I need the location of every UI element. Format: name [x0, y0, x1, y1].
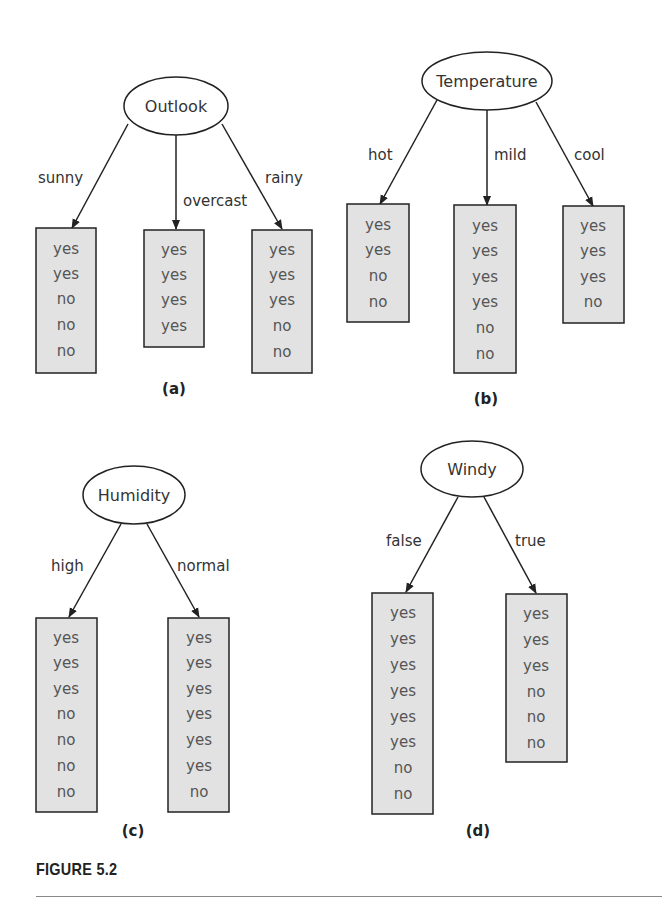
leaf-item: yes	[472, 268, 498, 286]
edge-label: cool	[574, 146, 605, 164]
root-label: Humidity	[98, 486, 171, 505]
panel-a: Outlook sunny overcast rainy yes yes no …	[36, 77, 312, 398]
panel-c: Humidity high normal yes yes yes no no n…	[36, 466, 230, 840]
panel-d: Windy false true yes yes yes yes yes yes…	[372, 441, 567, 840]
leaf-item: yes	[269, 291, 295, 309]
leaf-item: no	[273, 317, 292, 335]
edge-label: normal	[177, 557, 230, 575]
leaf-item: no	[57, 731, 76, 749]
leaf-item: yes	[472, 293, 498, 311]
leaf-item: no	[57, 316, 76, 334]
leaf-item: yes	[390, 682, 416, 700]
leaf-item: yes	[186, 629, 212, 647]
root-label: Windy	[447, 460, 497, 479]
leaf-item: no	[57, 757, 76, 775]
leaf-item: yes	[161, 241, 187, 259]
leaf-item: no	[476, 345, 495, 363]
panel-b: Temperature hot mild cool yes yes no no …	[347, 52, 624, 408]
caption-divider	[36, 896, 662, 897]
leaf-item: no	[190, 783, 209, 801]
edge-label: high	[51, 557, 84, 575]
leaf-item: no	[527, 734, 546, 752]
leaf-item: yes	[53, 240, 79, 258]
leaf-item: yes	[269, 266, 295, 284]
leaf-item: yes	[186, 654, 212, 672]
panel-label: (c)	[122, 822, 145, 840]
leaf-item: yes	[53, 680, 79, 698]
leaf-item: yes	[523, 657, 549, 675]
leaf-item: yes	[186, 731, 212, 749]
leaf-item: yes	[580, 242, 606, 260]
leaf-item: no	[57, 290, 76, 308]
leaf-item: yes	[390, 604, 416, 622]
leaf-item: yes	[161, 291, 187, 309]
leaf-item: no	[394, 759, 413, 777]
leaf-item: yes	[390, 708, 416, 726]
leaf-item: yes	[186, 757, 212, 775]
edge-label: rainy	[265, 169, 303, 187]
leaf-item: yes	[269, 241, 295, 259]
leaf-item: yes	[390, 630, 416, 648]
leaf-item: yes	[365, 216, 391, 234]
leaf-item: no	[584, 293, 603, 311]
root-label: Outlook	[145, 97, 208, 116]
leaf-item: yes	[186, 705, 212, 723]
edge-label: overcast	[183, 192, 247, 210]
panel-label: (a)	[162, 380, 186, 398]
leaf-item: yes	[390, 656, 416, 674]
leaf-item: yes	[472, 242, 498, 260]
edge-label: sunny	[38, 169, 83, 187]
leaf-item: yes	[53, 629, 79, 647]
leaf-item: no	[527, 708, 546, 726]
leaf-item: no	[273, 343, 292, 361]
leaf-item: no	[476, 319, 495, 337]
leaf-item: no	[369, 267, 388, 285]
leaf-item: no	[369, 293, 388, 311]
edge-label: hot	[368, 146, 393, 164]
leaf-item: yes	[580, 268, 606, 286]
leaf-item: yes	[472, 217, 498, 235]
leaf-item: yes	[53, 265, 79, 283]
edge-label: false	[386, 532, 422, 550]
leaf-item: yes	[161, 266, 187, 284]
leaf-item: no	[394, 785, 413, 803]
root-label: Temperature	[435, 72, 537, 91]
decision-stumps-diagram: Outlook sunny overcast rainy yes yes no …	[0, 0, 662, 906]
leaf-item: yes	[523, 631, 549, 649]
leaf-item: yes	[161, 317, 187, 335]
edge-label: mild	[494, 146, 526, 164]
leaf-item: yes	[580, 217, 606, 235]
edge-label: true	[515, 532, 546, 550]
leaf-item: yes	[53, 654, 79, 672]
panel-label: (d)	[466, 822, 490, 840]
leaf-item: yes	[186, 680, 212, 698]
leaf-item: yes	[390, 733, 416, 751]
figure-caption: FIGURE 5.2	[36, 860, 117, 880]
panel-label: (b)	[474, 390, 498, 408]
leaf-box	[372, 593, 433, 814]
leaf-item: yes	[523, 605, 549, 623]
leaf-item: yes	[365, 241, 391, 259]
leaf-item: no	[57, 705, 76, 723]
leaf-item: no	[57, 783, 76, 801]
leaf-item: no	[527, 683, 546, 701]
leaf-item: no	[57, 342, 76, 360]
